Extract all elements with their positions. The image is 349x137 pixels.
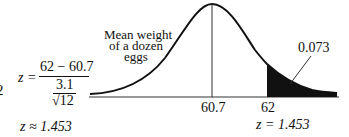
curve-label: Mean weight of a dozen eggs — [104, 29, 168, 62]
formula-radical: √12 — [52, 93, 74, 109]
area-leader-line — [290, 56, 311, 84]
mean-tick-label: 60.7 — [201, 100, 226, 116]
formula-numerator: 62 − 60.7 — [40, 59, 93, 75]
formula-lhs: z = — [18, 70, 36, 86]
value-tick-label: 62 — [261, 100, 275, 116]
cropped-fragment: 2 — [0, 82, 4, 99]
formula-denominator-top: 3.1 — [56, 77, 74, 93]
z-score-label: z = 1.453 — [256, 117, 309, 133]
formula-result: z ≈ 1.453 — [20, 119, 72, 135]
tail-area-value: 0.073 — [298, 40, 330, 56]
